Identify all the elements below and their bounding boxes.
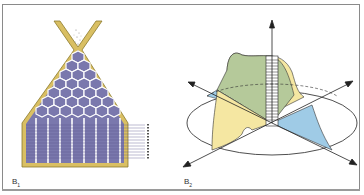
panel-b2: B2 xyxy=(182,0,364,195)
hex-cells xyxy=(36,51,120,117)
panel-b1: B1 xyxy=(0,0,182,195)
up-arrow-icon xyxy=(270,20,275,28)
arrow-left-up-icon xyxy=(188,82,195,87)
arrow-right-down-icon xyxy=(349,159,357,165)
surface-diagram xyxy=(182,0,364,195)
particles xyxy=(74,29,82,44)
arrow-left-down-icon xyxy=(183,161,191,167)
tick-labels xyxy=(147,124,149,159)
panel-b2-label: B2 xyxy=(184,177,192,188)
arrow-right-up-icon xyxy=(345,81,353,87)
panel-b1-label: B1 xyxy=(12,177,20,188)
hopper-diagram xyxy=(0,0,182,195)
